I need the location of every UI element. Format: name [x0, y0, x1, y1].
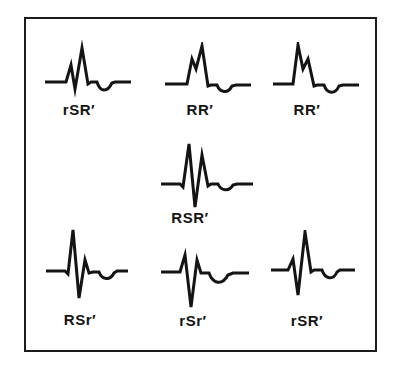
qrs-label-rr-prime-top-right: RR′	[263, 101, 351, 118]
qrs-waveform-path	[271, 232, 355, 295]
ecg-trace-rr-prime-top-right	[272, 42, 360, 104]
ecg-trace-rsr-prime-middle	[160, 136, 254, 212]
qrs-waveform-path	[161, 255, 249, 307]
qrs-waveform-path	[46, 230, 128, 298]
qrs-label-rsr-prime-middle: RSR′	[143, 209, 237, 226]
qrs-label-rsr-prime-top-left: rSR′	[35, 101, 123, 118]
ecg-trace-rsr-prime-bottom-right	[270, 230, 356, 306]
figure-frame: rSR′ RR′ RR′ RSR′ RSr′ rSr′ rSR′	[24, 17, 377, 352]
qrs-label-rsr-prime-bottom-right: rSR′	[264, 312, 350, 329]
qrs-waveform-path	[273, 45, 359, 92]
ecg-trace-rr-prime-top-middle	[164, 42, 252, 104]
qrs-label-rsr-small-bottom-middle: rSr′	[148, 312, 238, 329]
qrs-waveform-path	[165, 46, 251, 92]
ecg-morphology-figure: rSR′ RR′ RR′ RSR′ RSr′ rSr′ rSR′	[0, 0, 397, 369]
qrs-label-rsr-lowercase-bottom-left: RSr′	[38, 311, 122, 328]
qrs-waveform-path	[161, 144, 253, 207]
qrs-waveform-path	[45, 48, 131, 90]
ecg-trace-rsr-small-bottom-middle	[160, 232, 250, 312]
qrs-label-rr-prime-top-middle: RR′	[156, 101, 244, 118]
ecg-trace-rsr-lowercase-bottom-left	[45, 227, 129, 307]
ecg-trace-rsr-prime-top-left	[44, 40, 132, 102]
